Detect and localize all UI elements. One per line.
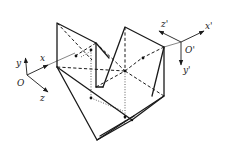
y-prime-label: y' bbox=[182, 65, 191, 75]
marked-points bbox=[75, 49, 145, 122]
z-prime-axis bbox=[159, 31, 181, 42]
y-axis bbox=[26, 58, 28, 75]
right-plate bbox=[103, 27, 164, 96]
moving-coordinate-frame: x' z' O' y' bbox=[159, 19, 213, 75]
origin-label: O bbox=[17, 78, 25, 88]
z-prime-label: z' bbox=[160, 19, 168, 29]
x-prime-axis bbox=[181, 31, 204, 42]
mechanism-diagram: y x O z x' z' O' y' bbox=[0, 0, 226, 154]
x-axis-label: x bbox=[40, 53, 45, 63]
x-prime-label: x' bbox=[205, 21, 213, 31]
y-axis-label: y bbox=[15, 58, 22, 68]
z-axis bbox=[27, 75, 48, 92]
wedge bbox=[57, 47, 164, 140]
origin-prime-label: O' bbox=[185, 45, 195, 55]
z-axis-label: z bbox=[39, 93, 45, 103]
world-coordinate-frame: y x O z bbox=[15, 53, 75, 103]
hidden-edges bbox=[57, 23, 164, 96]
x-axis-extension bbox=[48, 53, 75, 65]
x-axis bbox=[27, 65, 48, 75]
link-to-plate bbox=[164, 42, 181, 47]
